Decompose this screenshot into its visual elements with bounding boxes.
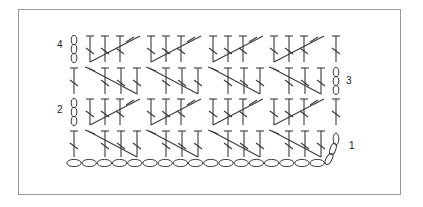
chain-stitch-icon bbox=[82, 159, 96, 166]
chain-stitch-icon bbox=[333, 68, 339, 77]
cross-stitch-diagonal bbox=[90, 99, 140, 125]
chain-stitch-icon bbox=[71, 99, 77, 108]
chain-stitch-icon bbox=[112, 159, 126, 166]
chain-stitch-icon bbox=[143, 159, 157, 166]
chain-stitch-icon bbox=[333, 133, 339, 145]
chain-stitch-icon bbox=[234, 159, 248, 166]
chain-stitch-icon bbox=[204, 159, 218, 166]
cross-stitch-diagonal bbox=[274, 99, 324, 125]
chain-stitch-icon bbox=[158, 159, 172, 166]
cross-stitch-diagonal bbox=[274, 36, 324, 62]
row-label-2: 2 bbox=[57, 105, 63, 115]
row-label-1: 1 bbox=[349, 141, 355, 151]
cross-stitch-diagonal bbox=[213, 99, 263, 125]
cross-stitch-diagonal bbox=[211, 68, 260, 94]
cross-stitch-diagonal bbox=[88, 68, 137, 94]
diagonal-top-bar bbox=[269, 67, 279, 71]
cross-stitch-diagonal bbox=[213, 36, 263, 62]
chain-stitch-icon bbox=[328, 142, 337, 155]
cross-stitch-diagonal bbox=[88, 131, 137, 157]
chain-stitch-icon bbox=[67, 159, 81, 166]
diagonal-top-bar bbox=[85, 130, 95, 134]
cross-stitch-diagonal bbox=[151, 36, 201, 62]
diagonal-top-bar bbox=[146, 67, 156, 71]
row-label-3: 3 bbox=[346, 76, 352, 86]
chain-stitch-icon bbox=[71, 108, 77, 117]
chain-stitch-icon bbox=[295, 159, 309, 166]
cross-stitch-diagonal bbox=[151, 99, 201, 125]
chain-stitch-icon bbox=[264, 159, 278, 166]
chain-stitch-icon bbox=[219, 159, 233, 166]
diagonal-top-bar bbox=[208, 67, 218, 71]
chain-stitch-icon bbox=[71, 117, 77, 126]
crochet-chart bbox=[0, 0, 423, 207]
chain-stitch-icon bbox=[333, 77, 339, 86]
chain-stitch-icon bbox=[310, 159, 324, 166]
cross-stitch-diagonal bbox=[211, 131, 260, 157]
diagonal-top-bar bbox=[269, 130, 279, 134]
cross-stitch-diagonal bbox=[149, 131, 198, 157]
chain-stitch-icon bbox=[188, 159, 202, 166]
diagonal-top-bar bbox=[146, 130, 156, 134]
chain-stitch-icon bbox=[249, 159, 263, 166]
cross-stitch-diagonal bbox=[272, 131, 321, 157]
chain-stitch-icon bbox=[71, 36, 77, 45]
chain-stitch-icon bbox=[97, 159, 111, 166]
cross-stitch-diagonal bbox=[90, 36, 140, 62]
cross-stitch-diagonal bbox=[149, 68, 198, 94]
cross-stitch-diagonal bbox=[272, 68, 321, 94]
chain-stitch-icon bbox=[71, 54, 77, 63]
chain-stitch-icon bbox=[280, 159, 294, 166]
chain-stitch-icon bbox=[128, 159, 142, 166]
row-label-4: 4 bbox=[57, 40, 63, 50]
chain-stitch-icon bbox=[173, 159, 187, 166]
chain-stitch-icon bbox=[71, 45, 77, 54]
diagonal-top-bar bbox=[85, 67, 95, 71]
diagonal-top-bar bbox=[208, 130, 218, 134]
chain-stitch-icon bbox=[333, 86, 339, 95]
